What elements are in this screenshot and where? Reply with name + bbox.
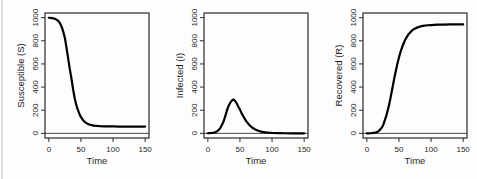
y-tick-label: 1000 — [191, 8, 200, 26]
x-tick-label: 100 — [265, 145, 279, 154]
y-tick-label: 400 — [350, 80, 359, 94]
y-tick-label: 0 — [191, 131, 200, 136]
x-tick-label: 150 — [138, 145, 152, 154]
x-tick-label: 0 — [365, 145, 370, 154]
x-axis-title: Time — [246, 155, 267, 166]
y-tick-label: 1000 — [350, 8, 359, 26]
x-tick-label: 50 — [76, 145, 85, 154]
y-tick-label: 400 — [32, 80, 41, 94]
panel-infected: 05010015002004006008001000TimeInfected (… — [159, 0, 318, 179]
plot-box — [45, 13, 149, 138]
y-tick-label: 800 — [350, 34, 359, 48]
y-axis-title: Infected (I) — [174, 53, 185, 98]
recovered-chart: 05010015002004006008001000TimeRecovered … — [318, 0, 477, 179]
x-axis-title: Time — [87, 155, 108, 166]
x-tick-label: 50 — [394, 145, 403, 154]
susceptible-chart: 05010015002004006008001000TimeSusceptibl… — [0, 0, 159, 179]
plot-box — [204, 13, 308, 138]
x-tick-label: 0 — [47, 145, 52, 154]
y-axis-title: Susceptible (S) — [15, 43, 26, 107]
x-tick-label: 150 — [456, 145, 470, 154]
y-tick-label: 200 — [350, 103, 359, 117]
y-tick-label: 800 — [191, 34, 200, 48]
y-tick-label: 800 — [32, 34, 41, 48]
y-tick-label: 200 — [191, 103, 200, 117]
data-curve-S — [49, 18, 145, 127]
data-curve-R — [367, 24, 463, 133]
y-tick-label: 600 — [191, 57, 200, 71]
y-tick-label: 600 — [32, 57, 41, 71]
y-tick-label: 600 — [350, 57, 359, 71]
x-tick-label: 50 — [235, 145, 244, 154]
y-tick-label: 0 — [32, 131, 41, 136]
y-tick-label: 400 — [191, 80, 200, 94]
y-tick-label: 1000 — [32, 8, 41, 26]
y-tick-label: 200 — [32, 103, 41, 117]
plot-box — [363, 13, 467, 138]
y-tick-label: 0 — [350, 131, 359, 136]
x-axis-title: Time — [405, 155, 426, 166]
x-tick-label: 100 — [424, 145, 438, 154]
x-tick-label: 150 — [297, 145, 311, 154]
panel-recovered: 05010015002004006008001000TimeRecovered … — [318, 0, 477, 179]
panel-susceptible: 05010015002004006008001000TimeSusceptibl… — [0, 0, 159, 179]
data-curve-I — [208, 99, 304, 133]
infected-chart: 05010015002004006008001000TimeInfected (… — [159, 0, 318, 179]
y-axis-title: Recovered (R) — [333, 45, 344, 107]
x-tick-label: 100 — [106, 145, 120, 154]
x-tick-label: 0 — [206, 145, 211, 154]
sir-model-figure: 05010015002004006008001000TimeSusceptibl… — [0, 0, 477, 179]
